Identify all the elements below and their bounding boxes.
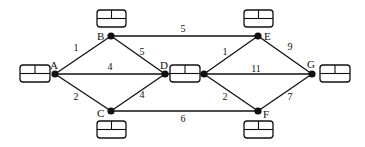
node-label: B xyxy=(97,30,104,42)
node-C xyxy=(107,107,114,114)
node-label: F xyxy=(263,108,269,120)
edge-D2-E xyxy=(204,36,258,74)
node-B xyxy=(107,32,114,39)
node-label: G xyxy=(307,58,315,70)
node-label: D xyxy=(160,59,168,71)
edge-F-G xyxy=(258,74,312,111)
node-F xyxy=(254,107,261,114)
time-box-B xyxy=(97,10,126,27)
time-box-D xyxy=(170,65,200,82)
edge-weight-label: 6 xyxy=(181,113,186,124)
node-label: A xyxy=(50,59,58,71)
time-box-E xyxy=(244,10,273,27)
time-box-C xyxy=(97,121,126,138)
node-label: E xyxy=(264,30,271,42)
edge-weight-label: 1 xyxy=(74,42,79,53)
node-label: C xyxy=(97,107,104,119)
edge-A-C xyxy=(55,74,111,111)
edge-weight-label: 4 xyxy=(108,61,113,72)
edge-D2-F xyxy=(204,74,258,111)
edge-weight-label: 2 xyxy=(74,91,79,102)
edge-weight-label: 4 xyxy=(140,89,145,100)
edge-B-D xyxy=(111,36,165,74)
edge-weight-label: 7 xyxy=(288,91,293,102)
edge-weight-label: 2 xyxy=(223,91,228,102)
node-E xyxy=(254,32,261,39)
time-box-A xyxy=(20,65,50,82)
edge-weight-label: 9 xyxy=(288,41,293,52)
time-box-F xyxy=(244,121,273,138)
edge-weight-label: 11 xyxy=(251,63,261,74)
node-A xyxy=(51,70,58,77)
node-G xyxy=(308,70,315,77)
edge-C-D xyxy=(111,74,165,111)
edge-weight-label: 5 xyxy=(140,46,145,57)
edge-weight-label: 5 xyxy=(181,23,186,34)
time-box-G xyxy=(320,65,350,82)
node-D xyxy=(161,70,168,77)
edge-weight-label: 1 xyxy=(223,46,228,57)
node-D2 xyxy=(200,70,207,77)
network-diagram: 1425456111297ABCDEFG xyxy=(0,0,365,147)
